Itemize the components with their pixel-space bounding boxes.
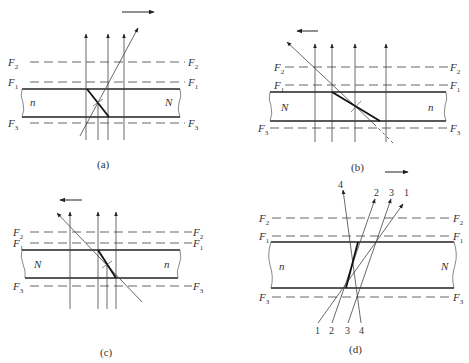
label-F3-left: F3 [257, 122, 269, 137]
slab-break-left [269, 242, 273, 288]
label-F3-right: F3 [192, 280, 204, 295]
slab-break-left [21, 250, 25, 278]
label-F2-right: F2 [452, 212, 464, 227]
ray-4 [343, 190, 361, 323]
caption-b: (b) [351, 161, 364, 174]
label-F1-left: F1 [7, 76, 19, 91]
label-F2-left: F2 [7, 56, 19, 71]
ray-label-top-2: 2 [374, 187, 379, 198]
ray-label-bottom-2: 2 [329, 325, 334, 336]
label-F3-left: F3 [258, 291, 270, 306]
caption-d: (d) [349, 343, 362, 356]
medium-left: N [33, 258, 42, 270]
ray-label-top-3: 3 [389, 187, 394, 198]
slab-break-right [444, 92, 447, 121]
caption-a: (a) [97, 158, 110, 171]
figure-canvas: F2 F1 F3 F2 F1 F3 n N (a) F2 F1 F3 F2 F1… [0, 0, 469, 363]
label-F3-right: F3 [187, 117, 199, 132]
ray-3 [348, 199, 391, 323]
ray-oblique-dashed [374, 124, 395, 145]
panel-b: F2 F1 F3 F2 F1 F3 N n (b) [257, 31, 461, 174]
medium-left: N [280, 101, 289, 113]
ray-oblique [287, 42, 374, 124]
label-F3-right: F3 [452, 291, 464, 306]
slab-break-right [453, 242, 457, 288]
ray-label-bottom-1: 1 [315, 325, 320, 336]
interface-segment [346, 242, 358, 288]
slab-break-left [269, 92, 272, 121]
label-F1-right: F1 [449, 79, 461, 94]
medium-right: N [164, 96, 173, 108]
slab-break-right [178, 89, 181, 117]
label-F2-left: F2 [273, 61, 285, 76]
label-F3-left: F3 [12, 280, 24, 295]
label-F3-left: F3 [7, 117, 19, 132]
panel-a: F2 F1 F3 F2 F1 F3 n N (a) [7, 12, 199, 171]
label-F2-right: F2 [187, 56, 199, 71]
label-F1-left: F1 [258, 230, 270, 245]
ray-label-top-1: 1 [404, 187, 409, 198]
panel-d: 4 2 3 1 1 2 3 4 F2 F1 F3 F2 F1 F3 n N (d… [258, 172, 464, 356]
label-F1-right: F1 [452, 230, 464, 245]
medium-right: N [440, 260, 449, 272]
caption-c: (c) [100, 346, 113, 359]
medium-left: n [30, 96, 36, 108]
medium-left: n [279, 260, 285, 272]
label-F2-right: F2 [449, 61, 461, 76]
label-F2-left: F2 [258, 212, 270, 227]
medium-right: n [428, 101, 434, 113]
panel-c: F2 F1 F3 F2 F1 F3 N n (c) [12, 200, 204, 359]
slab-break-right [177, 250, 181, 278]
label-F1-right: F1 [187, 76, 199, 91]
label-F3-right: F3 [449, 122, 461, 137]
ray-label-bottom-3: 3 [345, 325, 350, 336]
medium-right: n [164, 258, 170, 270]
ray-label-bottom-4: 4 [359, 325, 364, 336]
slab-break-left [21, 89, 24, 117]
ray-label-top-4: 4 [338, 179, 343, 190]
ray-1 [318, 204, 403, 323]
